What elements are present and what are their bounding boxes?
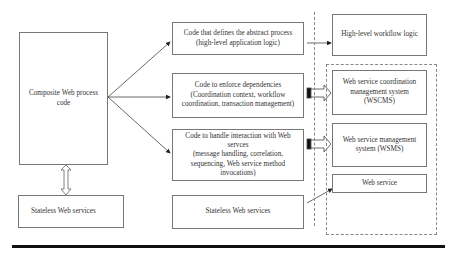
workflow-label: High-level workflow logic <box>341 30 418 39</box>
stateless-services-box-left: Stateless Web services <box>18 195 124 228</box>
separator-line <box>314 12 315 226</box>
wscms-label: Web service coordination management syst… <box>333 78 426 106</box>
arrow-to-interaction <box>108 97 170 153</box>
stateless-label-middle: Stateless Web services <box>206 207 271 216</box>
abstract-label: Code that defines the abstract process (… <box>173 29 303 48</box>
bottom-rule <box>12 245 445 248</box>
dependencies-box: Code to enforce dependencies (Coordinati… <box>172 73 304 118</box>
wscms-box: Web service coordination management syst… <box>332 70 427 115</box>
web-service-box: Web service <box>332 174 427 193</box>
dependencies-label: Code to enforce dependencies (Coordinati… <box>173 81 303 109</box>
wsms-label: Web service management system (WSMS) <box>333 136 426 155</box>
double-arrow-icon <box>61 165 71 195</box>
abstract-process-box: Code that defines the abstract process (… <box>172 22 304 55</box>
arrow-to-abstract <box>108 42 170 97</box>
stateless-label-left: Stateless Web services <box>19 207 96 216</box>
stateless-services-box-middle: Stateless Web services <box>172 195 304 229</box>
wsms-box: Web service management system (WSMS) <box>332 123 427 167</box>
web-service-label: Web service <box>362 179 397 188</box>
composite-label: Composite Web process code <box>20 89 107 108</box>
composite-process-box: Composite Web process code <box>19 32 108 165</box>
interaction-box: Code to handle interaction with Web serv… <box>172 129 304 181</box>
interaction-detail: (message handling, correlation, sequenci… <box>173 150 303 178</box>
interaction-title: Code to handle interaction with Web serv… <box>173 132 303 151</box>
workflow-logic-box: High-level workflow logic <box>332 14 427 56</box>
